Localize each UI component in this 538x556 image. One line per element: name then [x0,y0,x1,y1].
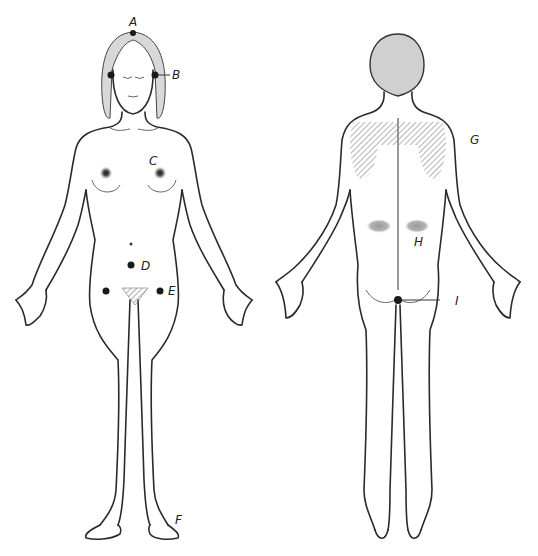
shade-kidney-right [404,219,430,233]
label-c: C [149,154,158,168]
point-e-right [157,288,164,295]
label-e: E [168,284,176,298]
body-diagram: A B C D E F G H I [0,0,538,556]
back-figure [276,34,520,538]
label-i: I [455,294,459,308]
back-head [370,34,424,96]
label-h: H [414,235,423,249]
shade-kidney-left [366,219,392,233]
point-c-left [99,166,113,180]
label-g: G [470,133,479,147]
point-b-left [108,72,115,79]
navel [130,243,133,246]
label-f: F [175,513,183,527]
point-i [394,296,402,304]
point-e-left [103,288,110,295]
point-a [130,30,136,36]
back-points [394,296,440,304]
point-b-right [152,72,159,79]
label-a: A [128,15,137,29]
label-d: D [141,259,150,273]
point-d [128,262,135,269]
front-figure [16,32,252,539]
point-c-right [153,166,167,180]
label-b: B [172,68,180,82]
labels: A B C D E F G H I [128,15,479,527]
